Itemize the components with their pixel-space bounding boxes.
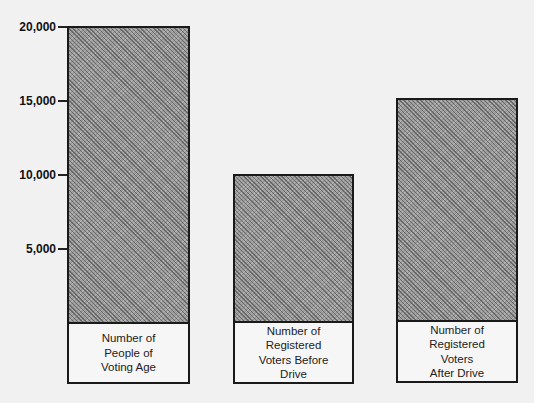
bar-label-people-of-voting-age: Number of People of Voting Age <box>67 322 190 384</box>
y-tick-label-10000: 10,000 <box>4 168 56 182</box>
bar-chart: 20,000 15,000 10,000 5,000 Number of Peo… <box>0 0 534 403</box>
bar-label-line: Voters Before <box>259 353 329 368</box>
bar-label-line: Number of <box>430 323 484 338</box>
bar-people-of-voting-age <box>67 26 190 324</box>
bar-label-line: Drive <box>280 367 307 382</box>
bar-label-line: Registered <box>266 338 322 353</box>
bar-label-registered-before-drive: Number of Registered Voters Before Drive <box>233 321 354 384</box>
bar-label-line: People of <box>104 346 153 361</box>
bar-label-line: Number of <box>267 324 321 339</box>
bar-label-line: After Drive <box>430 366 484 381</box>
bar-label-registered-after-drive: Number of Registered Voters After Drive <box>396 320 518 383</box>
bar-registered-after-drive <box>396 98 518 322</box>
y-tick-label-5000: 5,000 <box>4 242 56 256</box>
bar-label-line: Number of <box>102 331 156 346</box>
y-tick-label-20000: 20,000 <box>4 20 56 34</box>
y-tick-label-15000: 15,000 <box>4 94 56 108</box>
bar-label-line: Voting Age <box>101 360 156 375</box>
bar-label-line: Voters <box>441 352 474 367</box>
bar-label-line: Registered <box>429 337 485 352</box>
bar-registered-before-drive <box>233 174 354 323</box>
